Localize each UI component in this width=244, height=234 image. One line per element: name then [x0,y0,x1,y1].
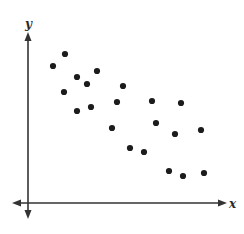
data-point [61,89,67,95]
y-axis-down-arrow-icon [25,210,32,219]
data-point [74,108,80,114]
data-point [84,81,90,87]
data-point [74,74,80,80]
data-point [166,168,172,174]
y-axis-label: y [24,17,33,31]
data-point [149,98,155,104]
x-axis-right-arrow-icon [218,200,227,207]
x-axis-left-arrow-icon [12,200,21,207]
data-point [180,173,186,179]
y-axis-up-arrow-icon [25,32,32,41]
data-point [120,83,126,89]
data-point [50,63,56,69]
data-points [50,51,207,179]
data-point [62,51,68,57]
axes: x y [12,17,237,219]
x-axis-label: x [228,197,237,211]
data-point [114,99,120,105]
data-point [127,145,133,151]
data-point [198,127,204,133]
scatter-plot: x y [0,0,244,234]
data-point [109,125,115,131]
data-point [88,104,94,110]
data-point [201,170,207,176]
data-point [141,149,147,155]
data-point [172,131,178,137]
data-point [178,100,184,106]
data-point [94,68,100,74]
data-point [153,120,159,126]
